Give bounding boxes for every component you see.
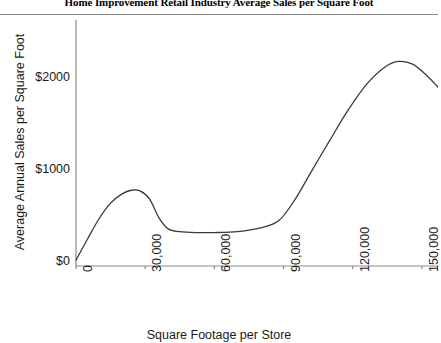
x-tick-label: 150,000: [427, 227, 441, 272]
x-tick-label: 120,000: [358, 227, 372, 272]
x-tick-label: 30,000: [150, 234, 164, 272]
data-series-line: [76, 61, 438, 260]
x-tick-label: 0: [81, 265, 95, 272]
x-tick-label: 60,000: [219, 234, 233, 272]
x-tick-label: 90,000: [289, 234, 303, 272]
